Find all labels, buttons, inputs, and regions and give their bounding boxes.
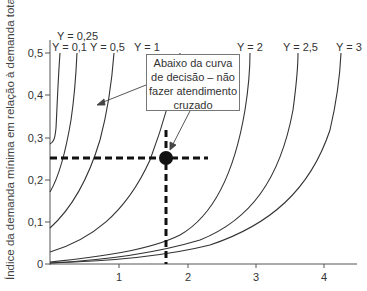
x-axis [50,264,357,268]
arrow-to-point [172,111,190,146]
arrowhead-icon [170,142,176,150]
annotation-box: Abaixo da curva de decisão – não fazer a… [146,54,240,111]
label-y-0.1: Y = 0,1 [52,41,87,53]
y-tick-0.2: 0,2 [28,174,43,186]
annotation-line-2: de decisão – não [147,70,239,84]
arrow-to-curve [101,85,146,103]
annotation-line-1: Abaixo da curva [147,56,239,70]
y-tick-0: 0 [37,258,43,270]
x-tick-2: 2 [185,271,191,283]
y-axis-label: Índice da demanda mínima em relação à de… [4,10,18,280]
x-tick-4: 4 [321,271,327,283]
curve-y-0.5 [50,53,114,228]
y-tick-0.4: 0,4 [28,89,43,101]
annotation-line-4: cruzado [147,98,239,112]
decision-curve-chart: 0 0,1 0,2 0,3 0,4 0,5 1 2 3 4 Y = 0,25 Y… [0,0,367,291]
decision-point-marker [159,151,173,165]
curve-y-0.25 [50,53,77,192]
label-y-1: Y = 1 [134,41,160,53]
x-tick-1: 1 [116,271,122,283]
arrowhead-icon [97,99,105,105]
label-y-3: Y = 3 [336,41,362,53]
label-y-2: Y = 2 [237,41,263,53]
annotation-line-3: fazer atendimento [147,84,239,98]
y-tick-0.3: 0,3 [28,132,43,144]
label-y-2.5: Y = 2,5 [283,41,318,53]
curve-labels: Y = 0,25 Y = 0,1 Y = 0,5 Y = 1 Y = 2 Y =… [52,30,362,53]
x-tick-labels: 1 2 3 4 [116,271,327,283]
y-axis [45,40,50,265]
curve-y-0.1 [50,53,60,144]
chart-canvas: 0 0,1 0,2 0,3 0,4 0,5 1 2 3 4 Y = 0,25 Y… [0,0,367,291]
y-tick-labels: 0 0,1 0,2 0,3 0,4 0,5 [28,47,43,270]
y-tick-0.5: 0,5 [28,47,43,59]
label-y-0.5: Y = 0,5 [90,41,125,53]
y-tick-0.1: 0,1 [28,216,43,228]
x-tick-3: 3 [253,271,259,283]
